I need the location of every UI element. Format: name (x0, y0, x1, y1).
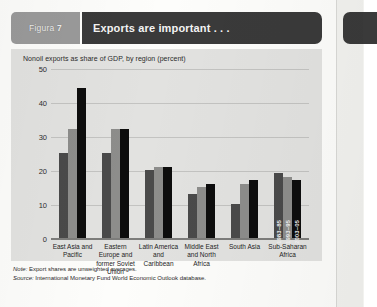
y-axis-tick-20: 20 (25, 167, 47, 176)
bar-1983–85-South Asia (231, 204, 240, 238)
bar-group: 1983–851993–952003–05 (266, 68, 309, 238)
bar-groups: 1983–851993–952003–05 (51, 68, 309, 238)
bar-2003–05-Eastern Europe and former Soviet Union (120, 129, 129, 238)
figure-title-bar: Exports are important . . . (82, 12, 322, 44)
y-axis-tick-40: 40 (25, 99, 47, 108)
bar-group (94, 68, 137, 238)
figure-number-tab: Figura 7 (11, 12, 80, 44)
gridline-0 (51, 239, 309, 240)
figure-header: Figura 7 Exports are important . . . (11, 12, 322, 46)
figure-card: Figura 7 Exports are important . . . Non… (11, 12, 322, 295)
bar-1983–85-Sub-Saharan Africa: 1983–85 (274, 173, 283, 238)
bar-1993–95-Sub-Saharan Africa: 1993–95 (283, 177, 292, 238)
bar-1983–85-East Asia and Pacific (59, 153, 68, 238)
bar-1993–95-South Asia (240, 184, 249, 238)
source-line: Source: International Monetary Fund Worl… (13, 274, 322, 283)
bar-2003–05-Sub-Saharan Africa: 2003–05 (292, 180, 301, 238)
bar-1993–95-Middle East and North Africa (197, 187, 206, 238)
bar-2003–05-Middle East and North Africa (206, 184, 215, 238)
chart-subtitle: Nonoil exports as share of GDP, by regio… (23, 55, 186, 62)
bar-1983–85-Eastern Europe and former Soviet Union (102, 153, 111, 238)
legend-label-2003–05: 2003–05 (294, 220, 300, 244)
note-line: Note: Export shares are unweighted avera… (13, 265, 322, 274)
adjacent-page-edge (336, 0, 364, 307)
bar-group (180, 68, 223, 238)
figure-number-label: Figura 7 (29, 23, 62, 33)
legend-label-1983–85: 1983–85 (276, 220, 282, 244)
y-axis-tick-30: 30 (25, 133, 47, 142)
bar-2003–05-South Asia (249, 180, 258, 238)
bar-1983–85-Latin America and Caribbean (145, 170, 154, 238)
bar-1993–95-Latin America and Caribbean (154, 167, 163, 238)
bar-2003–05-Latin America and Caribbean (163, 167, 172, 238)
chart-panel: Nonoil exports as share of GDP, by regio… (11, 49, 322, 261)
bar-2003–05-East Asia and Pacific (77, 88, 86, 238)
bar-1993–95-East Asia and Pacific (68, 129, 77, 238)
bar-group (51, 68, 94, 238)
figure-title: Exports are important . . . (82, 22, 230, 34)
bar-group (137, 68, 180, 238)
legend-label-1993–95: 1993–95 (285, 220, 291, 244)
y-axis-tick-10: 10 (25, 201, 47, 210)
figure-footnotes: Note: Export shares are unweighted avera… (13, 265, 322, 283)
x-axis-line (51, 238, 309, 239)
bar-1993–95-Eastern Europe and former Soviet Union (111, 129, 120, 238)
adjacent-figure-header (343, 12, 377, 44)
plot-area: 01020304050 1983–851993–952003–05 (51, 69, 309, 239)
bar-1983–85-Middle East and North Africa (188, 194, 197, 238)
y-axis-tick-50: 50 (25, 65, 47, 74)
y-axis-tick-0: 0 (25, 235, 47, 244)
bar-group (223, 68, 266, 238)
